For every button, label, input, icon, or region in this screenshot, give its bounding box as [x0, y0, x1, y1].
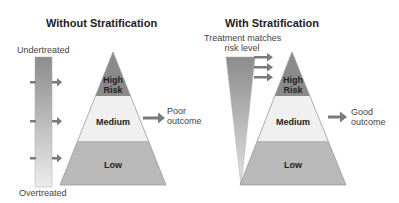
risk-line: Risk: [275, 85, 311, 95]
right-segment-medium: Medium: [265, 117, 321, 127]
label-line2: risk level: [204, 43, 280, 53]
left-segment-high-risk: High Risk: [95, 75, 131, 95]
high-line: High: [275, 75, 311, 85]
outcome-line1: Poor: [167, 106, 202, 116]
treatment-gradient-bar: [35, 57, 52, 187]
good-outcome-arrow-icon: [328, 112, 347, 123]
poor-outcome-arrow-icon: [143, 113, 165, 124]
risk-line: Risk: [95, 85, 131, 95]
poor-outcome-label: Poor outcome: [167, 106, 202, 126]
overtreated-label: Overtreated: [19, 188, 67, 198]
outcome-line1: Good: [351, 107, 386, 117]
high-line: High: [95, 75, 131, 85]
left-panel-title: Without Stratification: [46, 17, 157, 29]
treatment-matches-label: Treatment matches risk level: [204, 33, 280, 53]
right-arrows: [254, 53, 273, 82]
undertreated-label: Undertreated: [17, 45, 70, 55]
right-segment-high-risk: High Risk: [275, 75, 311, 95]
outcome-line2: outcome: [351, 117, 386, 127]
left-segment-medium: Medium: [85, 117, 141, 127]
diagram-graphics: [0, 0, 399, 203]
right-panel-title: With Stratification: [225, 17, 319, 29]
outcome-line2: outcome: [167, 116, 202, 126]
label-line1: Treatment matches: [204, 33, 280, 43]
good-outcome-label: Good outcome: [351, 107, 386, 127]
left-segment-low: Low: [85, 160, 141, 170]
right-segment-low: Low: [265, 160, 321, 170]
